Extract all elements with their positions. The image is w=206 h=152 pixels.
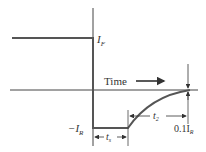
recovery-waveform-diagram: Time IF −IR ts t2 0.1IR <box>0 0 206 152</box>
storage-time-label: ts <box>106 131 112 143</box>
forward-current-label: IF <box>96 33 106 48</box>
threshold-label: 0.1IR <box>174 123 194 135</box>
reverse-current-label: −IR <box>68 122 84 137</box>
time-label: Time <box>104 75 127 87</box>
transition-time-label: t2 <box>153 110 159 122</box>
current-waveform <box>12 38 190 128</box>
